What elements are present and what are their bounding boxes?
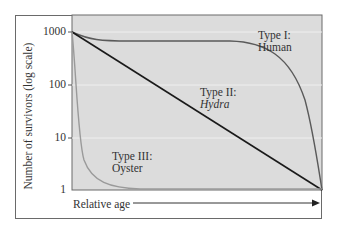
y-axis-label: Number of survivors (log scale): [22, 36, 34, 196]
annotation-type-ii-line2: Hydra: [200, 98, 237, 110]
annotation-type-ii-line1: Type II:: [200, 86, 237, 98]
tick-label-10: 10: [36, 131, 66, 143]
tick-label-1000: 1000: [36, 25, 66, 37]
annotation-type-ii: Type II: Hydra: [200, 86, 237, 110]
x-axis-label: Relative age: [73, 198, 130, 210]
annotation-type-i: Type I: Human: [258, 29, 292, 53]
annotation-type-i-line1: Type I:: [258, 29, 292, 41]
annotation-type-iii-line2: Oyster: [112, 162, 152, 174]
annotation-type-iii-line1: Type III:: [112, 150, 152, 162]
tick-label-100: 100: [36, 78, 66, 90]
tick-label-1: 1: [36, 183, 66, 195]
annotation-type-ii-italic: Hydra: [200, 98, 229, 110]
annotation-type-i-line2: Human: [258, 41, 292, 53]
annotation-type-iii: Type III: Oyster: [112, 150, 152, 174]
arrow-right-icon: [312, 200, 320, 207]
